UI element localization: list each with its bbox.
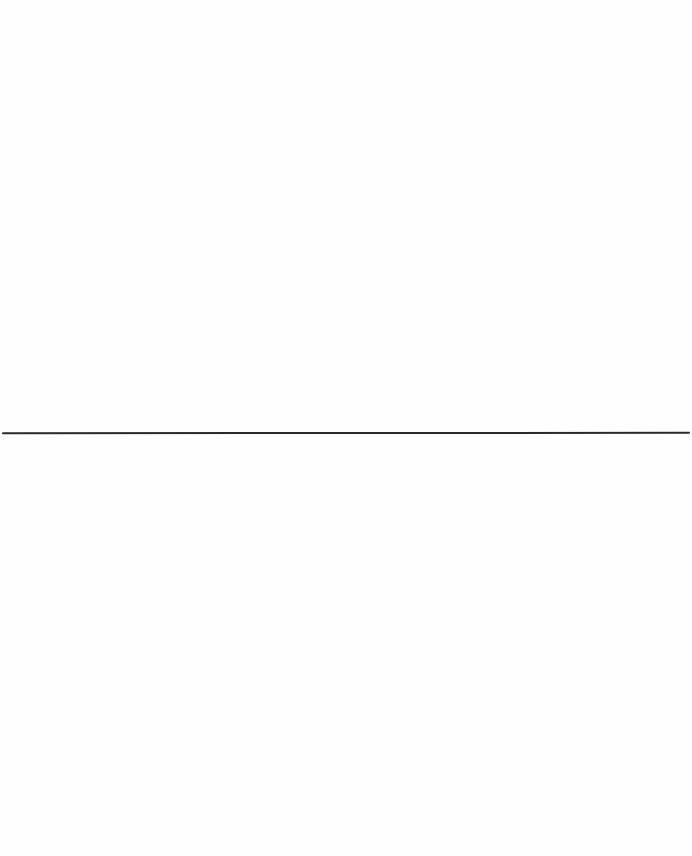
horizontal-rule: [2, 432, 690, 434]
document-page: [0, 0, 692, 856]
